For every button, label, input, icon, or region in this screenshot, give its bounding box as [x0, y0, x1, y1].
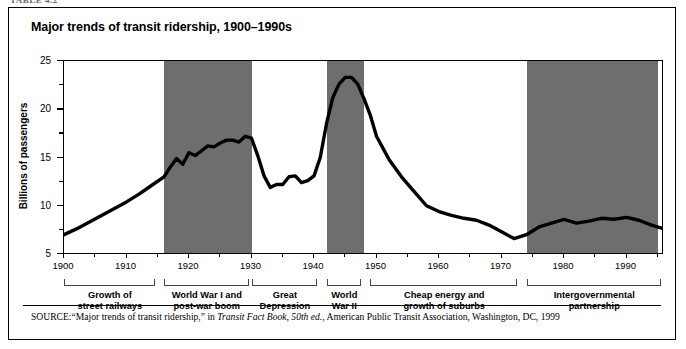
era-label: Cheap energy andgrowth of suburbs — [403, 290, 485, 312]
x-tick-major — [313, 253, 314, 258]
y-tick-major — [57, 157, 63, 158]
x-tick-major — [563, 253, 564, 258]
y-tick-minor — [59, 84, 63, 85]
era-bracket — [370, 279, 517, 286]
x-tick-major — [63, 253, 64, 258]
figure-container: Major trends of transit ridership, 1900–… — [8, 7, 676, 340]
x-tick-minor — [469, 253, 470, 257]
era-bracket — [164, 279, 249, 286]
cropped-page-header: TABLE 4.2 — [10, 0, 130, 6]
era-label-line: World — [331, 290, 357, 301]
x-tick-minor — [407, 253, 408, 257]
x-tick-minor — [157, 253, 158, 257]
x-tick-minor — [94, 253, 95, 257]
era-bracket — [327, 279, 362, 286]
x-tick-major — [126, 253, 127, 258]
y-tick-label: 10 — [40, 199, 51, 210]
y-tick-major — [57, 205, 63, 206]
x-tick-major — [501, 253, 502, 258]
x-tick-major — [626, 253, 627, 258]
era-label: GreatDepression — [260, 290, 311, 312]
x-tick-label: 1900 — [52, 260, 73, 271]
x-tick-major — [188, 253, 189, 258]
y-tick-label: 5 — [45, 248, 51, 259]
era-label: Intergovernmentalpartnership — [554, 290, 635, 312]
y-tick-major — [57, 60, 63, 61]
era-label-line: Great — [260, 290, 311, 301]
source-quoted-title: “Major trends of transit ridership,” in — [72, 311, 218, 322]
x-tick-label: 1960 — [427, 260, 448, 271]
era-bracket — [252, 279, 318, 286]
y-tick-minor — [59, 132, 63, 133]
x-axis-line — [63, 253, 663, 254]
x-tick-label: 1990 — [615, 260, 636, 271]
x-tick-label: 1910 — [115, 260, 136, 271]
figure-title: Major trends of transit ridership, 1900–… — [31, 20, 292, 34]
x-tick-label: 1920 — [177, 260, 198, 271]
x-tick-minor — [532, 253, 533, 257]
x-tick-label: 1940 — [302, 260, 323, 271]
y-tick-label: 15 — [40, 151, 51, 162]
x-tick-major — [438, 253, 439, 258]
y-tick-major — [57, 253, 63, 254]
x-tick-minor — [344, 253, 345, 257]
era-label: World War I andpost-war boom — [172, 290, 242, 312]
era-label-line: World War I and — [172, 290, 242, 301]
y-tick-minor — [59, 229, 63, 230]
y-tick-label: 25 — [40, 55, 51, 66]
era-label-line: Growth of — [78, 290, 143, 301]
era-label-line: Intergovernmental — [554, 290, 635, 301]
source-note: SOURCE:“Major trends of transit ridershi… — [31, 311, 659, 323]
x-tick-major — [376, 253, 377, 258]
x-tick-minor — [282, 253, 283, 257]
source-book-title: Transit Fact Book, 50th ed. — [217, 311, 322, 322]
x-tick-label: 1970 — [490, 260, 511, 271]
plot-area: Billions of passengers 19001910192019301… — [63, 60, 663, 253]
era-label: WorldWar II — [331, 290, 357, 312]
x-tick-minor — [219, 253, 220, 257]
source-tail: , American Public Transit Association, W… — [322, 311, 560, 322]
y-axis-title: Billions of passengers — [18, 103, 29, 210]
era-label-line: Cheap energy and — [403, 290, 485, 301]
y-tick-label: 20 — [40, 103, 51, 114]
era-bracket — [64, 279, 155, 286]
era-bracket — [527, 279, 662, 286]
x-tick-label: 1950 — [365, 260, 386, 271]
era-label: Growth ofstreet railways — [78, 290, 143, 312]
y-tick-major — [57, 108, 63, 109]
cropped-page-header-text: TABLE 4.2 — [10, 0, 130, 5]
ridership-line-series — [64, 61, 663, 253]
source-divider — [23, 305, 661, 306]
plot-box — [63, 60, 663, 253]
x-tick-label: 1930 — [240, 260, 261, 271]
x-tick-label: 1980 — [552, 260, 573, 271]
y-tick-minor — [59, 181, 63, 182]
source-label: SOURCE: — [31, 311, 72, 322]
x-tick-major — [251, 253, 252, 258]
x-tick-minor — [657, 253, 658, 257]
x-tick-minor — [594, 253, 595, 257]
